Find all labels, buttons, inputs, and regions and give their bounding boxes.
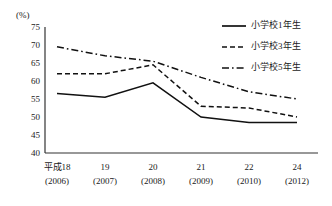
x-axis-category-label: 24 xyxy=(293,162,303,172)
y-axis-tick-label: 45 xyxy=(31,130,41,140)
series-lines xyxy=(57,47,297,123)
y-axis-tick-label: 70 xyxy=(31,40,41,50)
y-axis-unit-label: (%) xyxy=(16,10,30,20)
x-axis-year-label: (2007) xyxy=(93,176,117,186)
chart-legend: 小学校1年生小学校3年生小学校5年生 xyxy=(222,19,301,72)
y-axis-tick-labels: 7570656055504540 xyxy=(31,22,41,158)
x-axis-year-label: (2006) xyxy=(45,176,69,186)
chart-canvas: (%) 7570656055504540 平成18(2006)19(2007)2… xyxy=(0,0,332,206)
legend-label: 小学校1年生 xyxy=(251,19,301,30)
legend-label: 小学校3年生 xyxy=(251,40,301,51)
x-axis-category-label: 平成18 xyxy=(44,161,72,172)
x-axis-category-label: 20 xyxy=(149,162,159,172)
y-axis-tick-label: 40 xyxy=(31,148,41,158)
x-axis-year-label: (2008) xyxy=(141,176,165,186)
x-axis-category-label: 22 xyxy=(245,162,254,172)
series-line-dashed xyxy=(57,65,297,117)
x-axis-category-label: 19 xyxy=(101,162,111,172)
x-axis-year-label: (2012) xyxy=(285,176,309,186)
x-axis-year-label: (2010) xyxy=(237,176,261,186)
y-axis-tick-label: 65 xyxy=(31,58,41,68)
legend-label: 小学校5年生 xyxy=(251,61,301,72)
series-line-dashdot xyxy=(57,47,297,99)
x-axis-year-label: (2009) xyxy=(189,176,213,186)
y-axis-tick-label: 50 xyxy=(31,112,41,122)
series-line-solid xyxy=(57,83,297,123)
x-axis-tick-labels: 平成18(2006)19(2007)20(2008)21(2009)22(201… xyxy=(44,161,310,186)
x-axis-category-label: 21 xyxy=(197,162,206,172)
y-axis-tick-label: 60 xyxy=(31,76,41,86)
y-axis-tick-label: 75 xyxy=(31,22,41,32)
line-chart: (%) 7570656055504540 平成18(2006)19(2007)2… xyxy=(0,0,332,206)
y-axis-tick-label: 55 xyxy=(31,94,41,104)
